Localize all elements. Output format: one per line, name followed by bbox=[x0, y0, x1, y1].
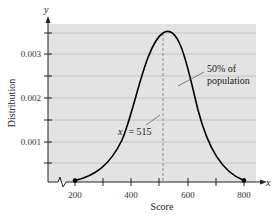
population-label-line1: 50% of bbox=[207, 63, 237, 74]
x-tick-200: 200 bbox=[68, 190, 82, 200]
y-axis-var: y bbox=[43, 4, 49, 15]
y-tick-0.001: 0.001 bbox=[21, 137, 41, 147]
y-tick-0.002: 0.002 bbox=[21, 93, 41, 103]
x-tick-400: 400 bbox=[124, 190, 138, 200]
endpoint-200 bbox=[73, 178, 78, 183]
population-label-line2: population bbox=[207, 75, 250, 86]
x-tick-600: 600 bbox=[181, 190, 195, 200]
mean-label-var: x bbox=[117, 126, 123, 137]
y-axis-title: Distribution bbox=[6, 79, 17, 127]
mean-label-value: = 515 bbox=[128, 126, 151, 137]
x-axis-title: Score bbox=[151, 201, 174, 212]
y-tick-0.003: 0.003 bbox=[21, 49, 42, 59]
x-tick-800: 800 bbox=[237, 190, 251, 200]
x-axis-var: x bbox=[265, 177, 271, 188]
endpoint-800 bbox=[242, 178, 247, 183]
normal-distribution-chart: y x 0.003 0.002 0.001 200 400 600 800 Sc… bbox=[0, 0, 273, 217]
y-axis-arrow-icon bbox=[46, 16, 51, 23]
